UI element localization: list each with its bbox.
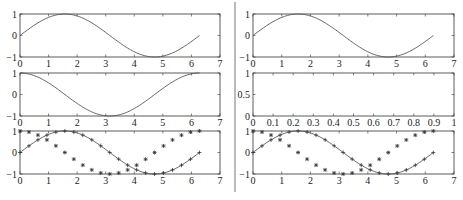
y-tick-label: 1 — [245, 9, 250, 20]
subplot-right-middle: 00.10.20.30.40.50.60.70.80.9100.51 — [238, 68, 457, 129]
star-marker — [395, 144, 399, 148]
star-marker — [81, 163, 85, 167]
star-marker — [144, 157, 148, 161]
x-tick-label: 0.7 — [387, 117, 400, 128]
axes-box — [20, 14, 220, 57]
star-marker — [18, 129, 22, 133]
plus-marker — [135, 168, 139, 172]
x-tick-label: 5 — [160, 58, 165, 69]
plus-marker — [171, 168, 175, 172]
axes-box — [253, 131, 454, 174]
x-tick-label: 7 — [452, 58, 457, 69]
star-marker — [72, 157, 76, 161]
axes-box — [20, 73, 220, 116]
plus-marker — [386, 172, 390, 176]
subplot-right-top: 01234567−101 — [239, 9, 456, 70]
x-tick-label: 3 — [103, 175, 108, 186]
y-tick-label: 0 — [12, 147, 17, 158]
plus-marker — [63, 129, 67, 133]
star-marker — [108, 172, 112, 176]
x-tick-label: 3 — [337, 58, 342, 69]
x-tick-label: 4 — [132, 175, 137, 186]
star-marker — [162, 144, 166, 148]
star-marker — [278, 138, 282, 142]
x-tick-label: 0 — [18, 58, 23, 69]
chart-figure: 01234567−10101234567−10101234567−1010123… — [0, 0, 463, 200]
star-marker — [45, 138, 49, 142]
y-tick-label: −1 — [239, 169, 250, 180]
x-tick-label: 0 — [18, 175, 23, 186]
axes-box — [253, 73, 454, 116]
axes-box — [20, 131, 220, 174]
star-marker — [63, 150, 67, 154]
plus-marker — [278, 133, 282, 137]
y-tick-label: −1 — [6, 52, 17, 63]
x-tick-label: 6 — [189, 58, 194, 69]
x-tick-label: 7 — [218, 117, 223, 128]
star-marker — [117, 171, 121, 175]
axes-box — [253, 14, 454, 57]
plus-marker — [45, 133, 49, 137]
plus-marker — [413, 163, 417, 167]
y-tick-label: 0 — [12, 30, 17, 41]
star-marker — [27, 130, 31, 134]
star-marker — [323, 168, 327, 172]
x-tick-label: 6 — [423, 175, 428, 186]
x-tick-label: 0.5 — [347, 117, 360, 128]
plus-marker — [314, 133, 318, 137]
subplot-right-bottom: 01234567−101 — [239, 126, 456, 187]
star-marker — [341, 172, 345, 176]
y-tick-label: −1 — [6, 111, 17, 122]
x-tick-label: 2 — [75, 175, 80, 186]
x-tick-label: 2 — [308, 58, 313, 69]
star-marker — [368, 163, 372, 167]
plus-marker — [81, 133, 85, 137]
star-marker — [413, 133, 417, 137]
x-tick-label: 0 — [18, 117, 23, 128]
star-marker — [179, 133, 183, 137]
x-tick-label: 0 — [251, 117, 256, 128]
line-sin(x) — [253, 14, 433, 57]
x-tick-label: 6 — [423, 58, 428, 69]
y-tick-label: 0 — [12, 89, 17, 100]
y-tick-label: 1 — [12, 68, 17, 79]
x-tick-label: 3 — [103, 58, 108, 69]
plus-marker — [296, 129, 300, 133]
x-tick-label: 7 — [218, 58, 223, 69]
plus-marker — [404, 168, 408, 172]
star-marker — [359, 168, 363, 172]
x-tick-label: 0.1 — [267, 117, 280, 128]
y-tick-label: −1 — [239, 52, 250, 63]
subplot-left-bottom: 01234567−101 — [6, 126, 222, 187]
star-marker — [332, 171, 336, 175]
y-tick-label: 1 — [245, 126, 250, 137]
x-tick-label: 0.6 — [367, 117, 380, 128]
x-tick-label: 3 — [103, 117, 108, 128]
star-marker — [422, 130, 426, 134]
y-tick-label: 0.5 — [238, 89, 251, 100]
x-tick-label: 0 — [251, 175, 256, 186]
x-tick-label: 5 — [160, 175, 165, 186]
line-sin(x) — [20, 14, 200, 57]
x-tick-label: 4 — [365, 175, 370, 186]
x-tick-label: 1 — [46, 117, 51, 128]
y-tick-label: 1 — [12, 9, 17, 20]
star-marker — [153, 151, 157, 155]
x-tick-label: 1 — [279, 58, 284, 69]
star-marker — [99, 171, 103, 175]
x-tick-label: 5 — [394, 175, 399, 186]
star-marker — [197, 129, 201, 133]
star-marker — [287, 144, 291, 148]
x-tick-label: 7 — [452, 175, 457, 186]
plus-marker — [126, 163, 130, 167]
x-tick-label: 4 — [132, 117, 137, 128]
x-tick-label: 1 — [46, 58, 51, 69]
star-marker — [126, 168, 130, 172]
star-marker — [260, 130, 264, 134]
star-marker — [90, 168, 94, 172]
x-tick-label: 6 — [189, 117, 194, 128]
star-marker — [269, 133, 273, 137]
y-tick-label: 0 — [245, 30, 250, 41]
star-marker — [296, 150, 300, 154]
plus-marker — [359, 163, 363, 167]
